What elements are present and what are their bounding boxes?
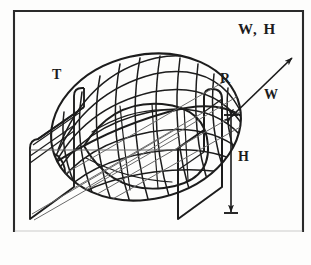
height-dimension-label: H xyxy=(238,150,249,164)
figure-diagram xyxy=(0,0,311,265)
width-arrow xyxy=(231,58,292,117)
caption-w-h: W, H xyxy=(238,22,277,37)
diagram-ink xyxy=(30,35,292,220)
figure-root: W, H T R W H xyxy=(0,0,311,265)
transmitter-label: T xyxy=(52,68,61,82)
receiver-label: R xyxy=(220,72,230,86)
width-dimension-label: W xyxy=(264,88,278,102)
